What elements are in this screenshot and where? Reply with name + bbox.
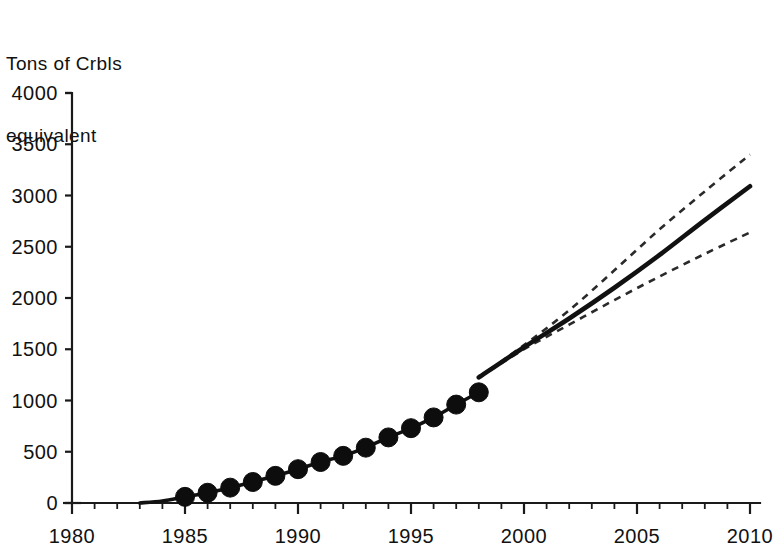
data-point-marker [289,460,308,479]
data-point-marker [379,428,398,447]
data-point-marker [424,408,443,427]
data-series [140,155,750,504]
data-point-marker [198,483,217,502]
data-point-marker [469,383,488,402]
data-point-marker [243,472,262,491]
data-point-marker [402,419,421,438]
data-point-marker [311,453,330,472]
data-point-markers [176,383,489,507]
data-point-marker [356,438,375,457]
axes [63,93,760,514]
data-point-marker [176,487,195,506]
data-point-marker [221,478,240,497]
series-historical-line [140,392,479,503]
data-point-marker [334,446,353,465]
series-projection-central [479,186,750,377]
data-point-marker [447,395,466,414]
data-point-marker [266,466,285,485]
series-projection-lower-bound [479,232,750,377]
series-projection-upper-bound [479,155,750,378]
